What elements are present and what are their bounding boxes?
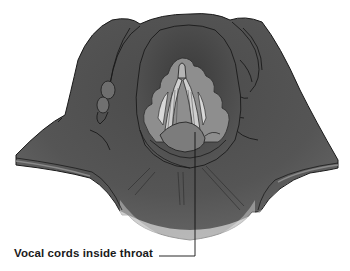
vocal-cords-label: Vocal cords inside throat [14, 247, 153, 259]
throat-illustration [0, 0, 350, 271]
